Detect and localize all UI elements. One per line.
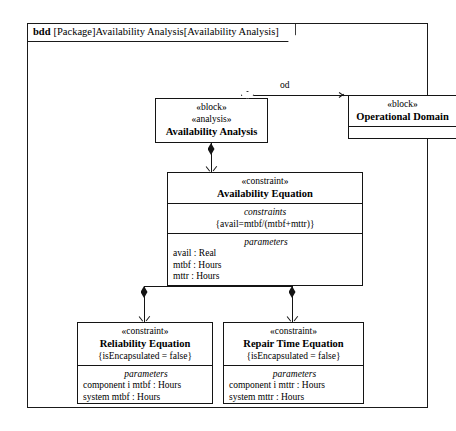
parameter-item: component i mttr : Hours bbox=[229, 380, 360, 392]
diagram-frame: bdd [Package]Availability Analysis[Avail… bbox=[27, 23, 428, 408]
block-header-compartment: «constraint» Availability Equation bbox=[168, 173, 362, 203]
connector-availability-to-repair-time-stub bbox=[212, 286, 292, 287]
parameters-compartment-title: parameters bbox=[83, 368, 209, 380]
block-stereotype: «block» bbox=[352, 98, 453, 110]
connector-label-od: od bbox=[280, 80, 290, 91]
parameter-item: mtbf : Hours bbox=[173, 260, 359, 272]
block-header-compartment: «block» «analysis» Availability Analysis bbox=[156, 99, 267, 142]
block-name: Availability Analysis bbox=[159, 125, 264, 138]
constraint-expression: {avail=mtbf/(mtbf+mttr)} bbox=[171, 218, 359, 230]
block-property: {isEncapsulated = false} bbox=[81, 350, 209, 362]
parameters-compartment-title: parameters bbox=[173, 236, 359, 248]
block-name: Reliability Equation bbox=[81, 337, 209, 350]
block-stereotype: «block» bbox=[159, 101, 264, 113]
block-empty-compartment bbox=[349, 126, 456, 139]
arrowhead-od bbox=[339, 92, 348, 99]
block-header-compartment: «constraint» Reliability Equation {isEnc… bbox=[78, 323, 212, 365]
parameter-item: mttr : Hours bbox=[173, 271, 359, 283]
block-header-compartment: «block» Operational Domain bbox=[349, 96, 456, 126]
block-name: Availability Equation bbox=[171, 187, 359, 200]
block-availability-analysis[interactable]: «block» «analysis» Availability Analysis bbox=[155, 98, 268, 143]
block-name: Repair Time Equation bbox=[227, 337, 360, 350]
parameters-compartment-title: parameters bbox=[229, 368, 360, 380]
block-operational-domain[interactable]: «block» Operational Domain bbox=[348, 95, 456, 139]
connector-analysis-to-domain bbox=[241, 95, 348, 96]
block-stereotype: «constraint» bbox=[81, 325, 209, 337]
parameters-compartment: parameters component i mtbf : Hours syst… bbox=[78, 365, 212, 406]
arrowhead-reliability bbox=[140, 314, 149, 321]
block-stereotype-analysis: «analysis» bbox=[159, 113, 264, 125]
parameter-item: system mtbf : Hours bbox=[83, 392, 209, 404]
block-stereotype: «constraint» bbox=[227, 325, 360, 337]
composition-diamond-repair-time bbox=[289, 286, 296, 298]
connector-availability-to-reliability-stub bbox=[144, 286, 212, 287]
arrowhead-availability-equation bbox=[207, 164, 216, 171]
parameter-item: system mttr : Hours bbox=[229, 392, 360, 404]
block-repair-time-equation[interactable]: «constraint» Repair Time Equation {isEnc… bbox=[223, 322, 364, 404]
arrowhead-repair-time bbox=[288, 314, 297, 321]
block-reliability-equation[interactable]: «constraint» Reliability Equation {isEnc… bbox=[77, 322, 213, 404]
block-header-compartment: «constraint» Repair Time Equation {isEnc… bbox=[224, 323, 363, 365]
frame-diagram-label: [Package]Availability Analysis[Availabil… bbox=[54, 27, 279, 38]
block-availability-equation[interactable]: «constraint» Availability Equation const… bbox=[167, 172, 363, 286]
frame-diagram-kind: bdd bbox=[33, 27, 51, 38]
parameter-item: component i mtbf : Hours bbox=[83, 380, 209, 392]
parameter-item: avail : Real bbox=[173, 248, 359, 260]
composition-diamond-availability-equation bbox=[208, 143, 215, 155]
constraints-compartment-title: constraints bbox=[171, 206, 359, 218]
parameters-compartment: parameters avail : Real mtbf : Hours mtt… bbox=[168, 233, 362, 286]
parameters-compartment: parameters component i mttr : Hours syst… bbox=[224, 365, 363, 406]
composition-diamond-reliability bbox=[141, 286, 148, 298]
frame-header-tag: bdd [Package]Availability Analysis[Avail… bbox=[28, 24, 296, 42]
block-name: Operational Domain bbox=[352, 110, 453, 123]
block-property: {isEncapsulated = false} bbox=[227, 350, 360, 362]
block-stereotype: «constraint» bbox=[171, 175, 359, 187]
constraints-compartment: constraints {avail=mtbf/(mtbf+mttr)} bbox=[168, 203, 362, 233]
